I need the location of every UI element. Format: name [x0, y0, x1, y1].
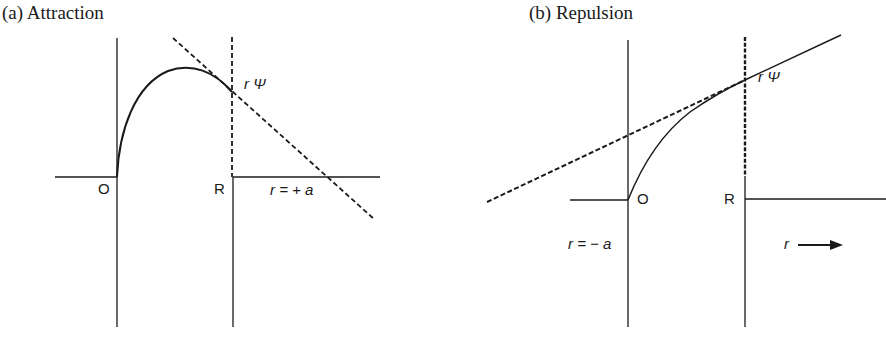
panel-a-title: (a) Attraction — [2, 2, 104, 24]
panel-b-wavefunction-label: r Ψ — [758, 68, 780, 85]
r-arrow-head-icon — [830, 240, 843, 250]
panel-repulsion — [487, 35, 886, 327]
panel-b-title: (b) Repulsion — [529, 2, 633, 24]
panel-b-axis-label: r — [784, 235, 789, 252]
panel-a-origin-label: O — [98, 180, 110, 197]
panel-a-wavefunction-label: r Ψ — [244, 75, 266, 92]
panel-b-origin-label: O — [637, 190, 649, 207]
tangent-dashed-line — [487, 80, 745, 202]
panel-a-intercept-label: r = + a — [270, 181, 313, 198]
panel-b-intercept-label: r = − a — [568, 235, 611, 252]
wavefunction-curve — [628, 80, 745, 200]
wavefunction-curve — [117, 68, 232, 177]
panel-b-boundary-label: R — [724, 190, 735, 207]
panel-a-boundary-label: R — [214, 180, 225, 197]
diagram-canvas — [0, 0, 886, 359]
scattering-length-diagram: (a) Attraction O R r Ψ r = + a (b) Repul… — [0, 0, 886, 359]
